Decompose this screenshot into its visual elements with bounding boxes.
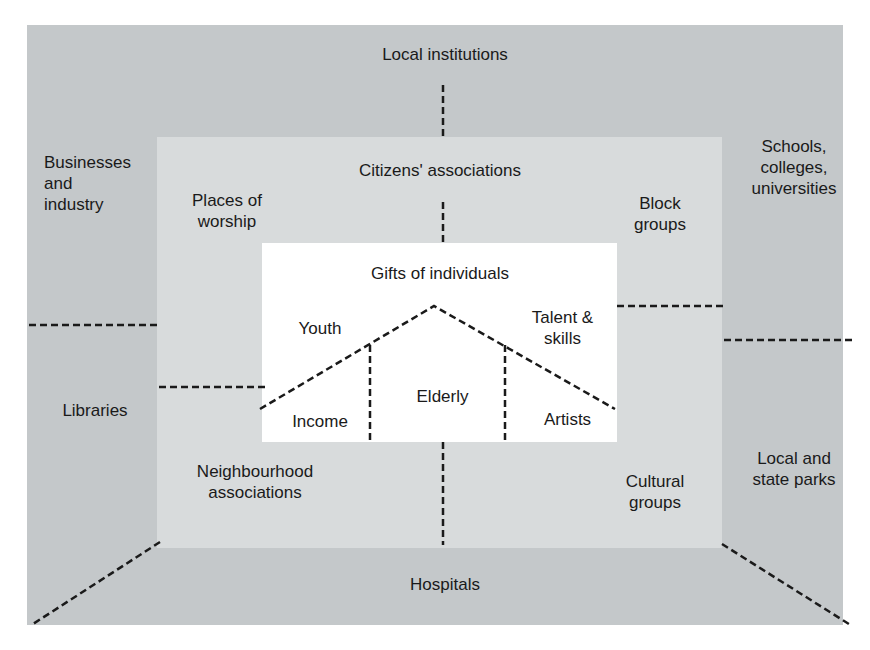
label-talent-and-skills: Talent & skills: [515, 307, 610, 349]
label-citizens-associations: Citizens' associations: [305, 160, 575, 181]
label-local-institutions: Local institutions: [330, 44, 560, 65]
label-businesses-and-industry: Businesses and industry: [44, 152, 131, 215]
label-elderly: Elderly: [400, 386, 485, 407]
label-places-of-worship: Places of worship: [172, 190, 282, 232]
label-block-groups: Block groups: [610, 193, 710, 235]
label-income: Income: [280, 411, 360, 432]
label-schools-colleges-universities: Schools, colleges, universities: [730, 136, 858, 199]
label-hospitals: Hospitals: [370, 574, 520, 595]
label-cultural-groups: Cultural groups: [595, 471, 715, 513]
label-artists: Artists: [525, 409, 610, 430]
label-gifts-of-individuals: Gifts of individuals: [310, 263, 570, 284]
label-libraries: Libraries: [40, 400, 150, 421]
label-local-and-state-parks: Local and state parks: [730, 448, 858, 490]
label-neighbourhood-associations: Neighbourhood associations: [180, 461, 330, 503]
label-youth: Youth: [285, 318, 355, 339]
